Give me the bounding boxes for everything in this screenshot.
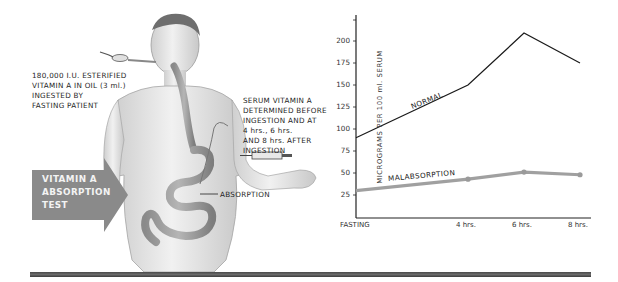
y-tick-label: 50	[326, 168, 350, 177]
y-axis-label: MICROGRAMS PER 100 ml. SERUM	[376, 37, 384, 197]
y-tick-label: 150	[326, 80, 350, 89]
serum-vitamin-chart	[0, 0, 618, 282]
y-tick-label: 175	[326, 58, 350, 67]
x-tick-label: 6 hrs.	[512, 221, 532, 229]
data-point	[521, 170, 526, 175]
data-point	[577, 172, 582, 177]
ground-bar	[30, 272, 591, 277]
x-tick-label: 4 hrs.	[456, 221, 476, 229]
series-line-normal	[356, 33, 580, 138]
x-tick-label: FASTING	[340, 221, 370, 229]
y-tick-label: 200	[326, 36, 350, 45]
data-point	[465, 177, 470, 182]
y-tick-label: 125	[326, 102, 350, 111]
x-tick-label: 8 hrs.	[568, 221, 588, 229]
y-tick-label: 75	[326, 146, 350, 155]
y-tick-label: 25	[326, 190, 350, 199]
y-tick-label: 100	[326, 124, 350, 133]
